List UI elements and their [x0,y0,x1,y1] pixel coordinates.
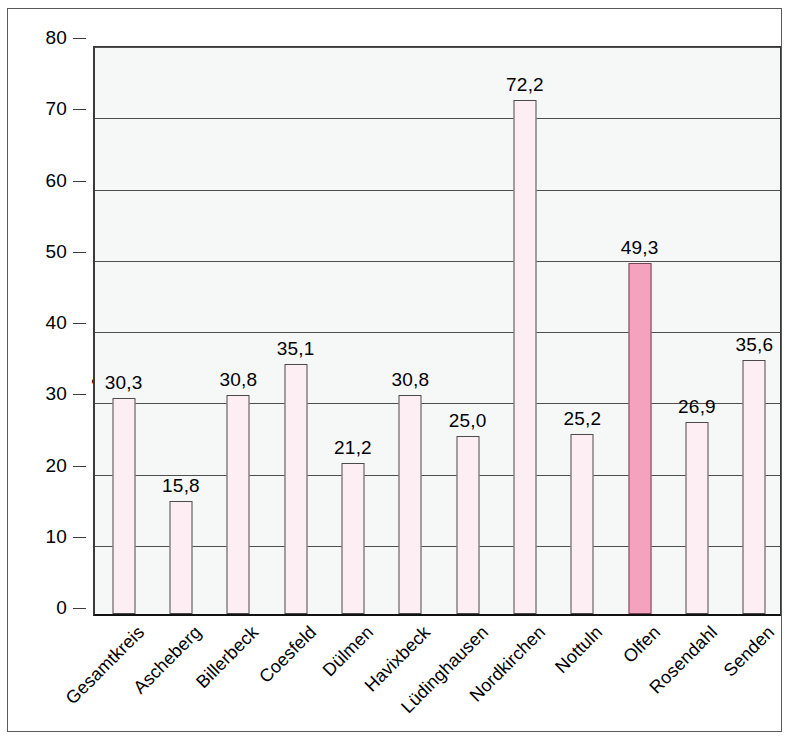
plot-area: 30,315,830,835,121,230,825,072,225,249,3… [93,46,781,616]
bar-nottuln[interactable] [571,434,594,614]
x-axis-label-coesfeld: Coesfeld [255,622,321,688]
bar-olfen[interactable] [628,263,651,614]
bar-value-label: 30,8 [391,369,429,391]
bar-slot: 72,2 [496,47,553,614]
y-axis-tick-label: 80 [11,27,67,49]
bar-havixbeck[interactable] [399,395,422,614]
bar-value-label: 49,3 [621,237,659,259]
y-tick-30 [73,394,86,395]
y-tick-40 [73,323,86,324]
y-axis-tick-label: 20 [11,455,67,477]
bar-nordkirchen[interactable] [513,100,536,614]
x-axis-label-nottuln: Nottuln [552,622,608,678]
bar-slot: 30,8 [210,47,267,614]
bar-coesfeld[interactable] [284,364,307,614]
bar-value-label: 25,2 [563,408,601,430]
y-axis-tick-label: 50 [11,241,67,263]
y-axis-tick-label: 30 [11,383,67,405]
bar-slot: 30,8 [382,47,439,614]
y-axis-tick-label: 40 [11,312,67,334]
y-tick-70 [73,109,86,110]
bar-value-label: 35,1 [277,338,315,360]
bar-slot: 49,3 [611,47,668,614]
bar-senden[interactable] [743,360,766,614]
bar-value-label: 72,2 [506,74,544,96]
y-tick-20 [73,466,86,467]
figure-border: m2 pro Einwohner 01020304050607080 30,31… [7,8,782,732]
bar-slot: 35,1 [267,47,324,614]
bar-value-label: 21,2 [334,437,372,459]
chart-figure: m2 pro Einwohner 01020304050607080 30,31… [0,0,791,740]
bar-slot: 25,0 [439,47,496,614]
bar-l-dinghausen[interactable] [456,436,479,614]
bar-billerbeck[interactable] [227,395,250,614]
bar-slot: 21,2 [324,47,381,614]
y-axis-tick-label: 0 [11,597,67,619]
bar-slot: 15,8 [152,47,209,614]
x-axis-label-olfen: Olfen [619,622,665,668]
bar-value-label: 15,8 [162,475,200,497]
bar-slot: 26,9 [668,47,725,614]
bar-value-label: 35,6 [735,334,773,356]
bar-d-lmen[interactable] [341,463,364,614]
y-tick-50 [73,252,86,253]
bar-ascheberg[interactable] [169,501,192,614]
x-axis-label-gesamtkreis: Gesamtkreis [61,622,148,709]
y-tick-0 [73,608,86,609]
x-axis-label-billerbeck: Billerbeck [192,622,263,693]
bar-slot: 30,3 [95,47,152,614]
y-axis-tick-label: 70 [11,98,67,120]
bar-gesamtkreis[interactable] [112,398,135,614]
bar-slot: 25,2 [554,47,611,614]
bar-slot: 35,6 [726,47,783,614]
bar-value-label: 25,0 [449,410,487,432]
y-tick-60 [73,181,86,182]
x-axis-labels: GesamtkreisAschebergBillerbeckCoesfeldDü… [93,616,781,740]
y-tick-10 [73,537,86,538]
bar-value-label: 30,3 [105,372,143,394]
y-axis-tick-label: 60 [11,170,67,192]
bar-value-label: 30,8 [219,369,257,391]
bar-value-label: 26,9 [678,396,716,418]
bar-rosendahl[interactable] [685,422,708,614]
y-axis-tick-label: 10 [11,526,67,548]
x-axis-label-senden: Senden [720,622,779,681]
y-tick-80 [73,38,86,39]
